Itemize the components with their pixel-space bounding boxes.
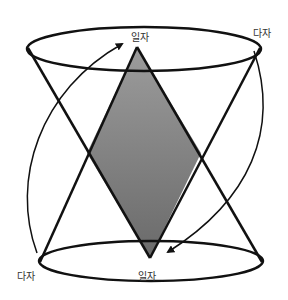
label-top-right-multi: 다자 — [253, 25, 271, 40]
label-bottom-left-multi: 다자 — [17, 268, 35, 283]
shaded-diamond — [87, 47, 201, 258]
label-bottom-single: 일자 — [138, 268, 156, 283]
label-top-single: 일자 — [131, 29, 149, 44]
double-cone-diagram — [0, 0, 288, 300]
